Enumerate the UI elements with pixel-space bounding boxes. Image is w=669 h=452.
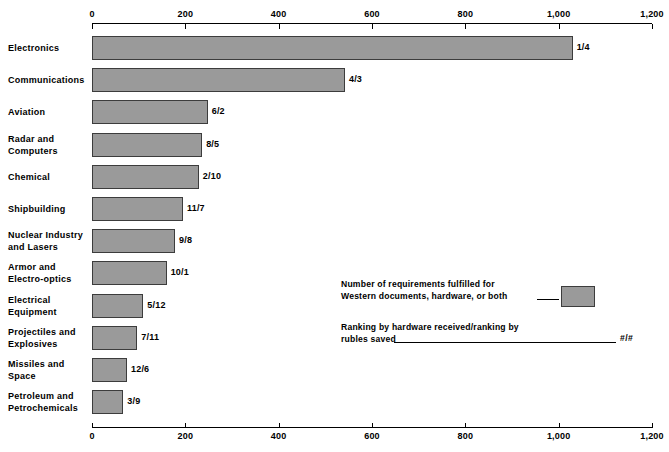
category-label: Radar and Computers — [8, 133, 58, 157]
bar-value-label: 8/5 — [206, 139, 219, 149]
legend-swatch-label: Number of requirements fulfilled for Wes… — [341, 278, 508, 302]
legend-ranking-mark: #/# — [620, 333, 633, 343]
bar — [92, 133, 202, 157]
bar — [92, 36, 573, 60]
axis-tick-label-top: 200 — [178, 9, 194, 19]
bar-value-label: 4/3 — [349, 74, 362, 84]
axis-tick-label-top: 0 — [89, 9, 94, 19]
bar-row: Aviation6/2 — [0, 100, 669, 124]
bar-row: Missiles and Space12/6 — [0, 358, 669, 382]
axis-tick-label-bottom: 200 — [178, 431, 194, 441]
category-label: Missiles and Space — [8, 358, 65, 382]
axis-tick-top-400 — [279, 24, 280, 29]
axis-tick-label-bottom: 600 — [364, 431, 380, 441]
axis-tick-label-top: 400 — [271, 9, 287, 19]
axis-tick-bottom-600 — [372, 423, 373, 428]
bar-row: Shipbuilding11/7 — [0, 197, 669, 221]
category-label: Electrical Equipment — [8, 294, 57, 318]
bar-value-label: 5/12 — [147, 300, 165, 310]
category-label: Electronics — [8, 42, 59, 54]
bar-chart: 02004006008001,0001,200 02004006008001,0… — [0, 0, 669, 452]
category-label: Projectiles and Explosives — [8, 326, 76, 350]
category-label: Nuclear Industry and Lasers — [8, 229, 83, 253]
axis-tick-bottom-1200 — [652, 423, 653, 428]
bar-row: Nuclear Industry and Lasers9/8 — [0, 229, 669, 253]
bar — [92, 100, 208, 124]
bar-value-label: 12/6 — [131, 364, 149, 374]
bar-value-label: 3/9 — [127, 396, 140, 406]
category-label: Communications — [8, 74, 85, 86]
axis-tick-label-top: 800 — [458, 9, 474, 19]
bar — [92, 390, 123, 414]
axis-tick-label-top: 600 — [364, 9, 380, 19]
axis-tick-bottom-1000 — [559, 423, 560, 428]
axis-tick-top-800 — [465, 24, 466, 29]
bar-row: Petroleum and Petrochemicals3/9 — [0, 390, 669, 414]
bar — [92, 197, 183, 221]
bar-value-label: 6/2 — [212, 106, 225, 116]
category-label: Petroleum and Petrochemicals — [8, 390, 78, 414]
legend-ranking-leader — [394, 342, 616, 343]
axis-tick-label-bottom: 1,200 — [640, 431, 664, 441]
axis-tick-label-bottom: 1,000 — [547, 431, 571, 441]
category-label: Chemical — [8, 171, 50, 183]
axis-tick-bottom-400 — [279, 423, 280, 428]
legend-color-swatch — [561, 286, 595, 307]
bar-value-label: 9/8 — [179, 235, 192, 245]
legend-swatch-leader — [537, 299, 559, 300]
bar-value-label: 11/7 — [187, 203, 205, 213]
axis-tick-label-bottom: 800 — [458, 431, 474, 441]
axis-tick-label-bottom: 400 — [271, 431, 287, 441]
bar — [92, 326, 137, 350]
bar — [92, 165, 199, 189]
category-label: Shipbuilding — [8, 203, 66, 215]
bar-value-label: 1/4 — [577, 42, 590, 52]
bar — [92, 68, 345, 92]
bar-row: Communications4/3 — [0, 68, 669, 92]
axis-tick-label-bottom: 0 — [89, 431, 94, 441]
category-label: Armor and Electro-optics — [8, 261, 72, 285]
axis-tick-top-200 — [185, 24, 186, 29]
bar — [92, 229, 175, 253]
bar — [92, 294, 143, 318]
axis-tick-label-top: 1,000 — [547, 9, 571, 19]
axis-tick-bottom-200 — [185, 423, 186, 428]
category-label: Aviation — [8, 106, 45, 118]
axis-tick-bottom-800 — [465, 423, 466, 428]
axis-tick-bottom-0 — [92, 423, 93, 428]
chart-legend: Number of requirements fulfilled for Wes… — [341, 278, 661, 344]
bar-value-label: 7/11 — [141, 332, 159, 342]
bar-row: Radar and Computers8/5 — [0, 133, 669, 157]
bar-value-label: 2/10 — [203, 171, 221, 181]
axis-tick-label-top: 1,200 — [640, 9, 664, 19]
bar — [92, 261, 167, 285]
bar — [92, 358, 127, 382]
axis-tick-top-1200 — [652, 24, 653, 29]
bar-row: Electronics1/4 — [0, 36, 669, 60]
bar-row: Chemical2/10 — [0, 165, 669, 189]
axis-tick-top-1000 — [559, 24, 560, 29]
axis-tick-top-0 — [92, 24, 93, 29]
bar-value-label: 10/1 — [171, 267, 189, 277]
axis-tick-top-600 — [372, 24, 373, 29]
